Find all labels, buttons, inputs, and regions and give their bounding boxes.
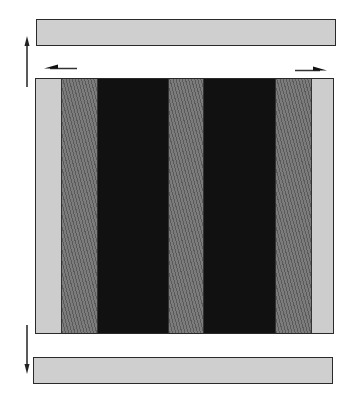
right-arrow-icon bbox=[295, 67, 327, 71]
up-arrow-icon bbox=[25, 36, 30, 87]
arrows-layer bbox=[0, 0, 357, 407]
down-arrow-icon bbox=[25, 325, 30, 374]
left-arrow-icon bbox=[44, 65, 77, 69]
